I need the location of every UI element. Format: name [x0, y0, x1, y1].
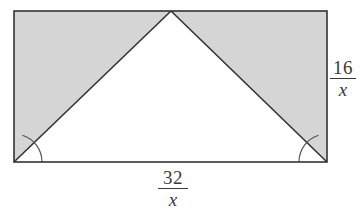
base-label-numerator: 32	[158, 168, 188, 188]
base-label-denominator: x	[158, 189, 188, 209]
base-label: 32 x	[158, 168, 188, 209]
height-label-numerator: 16	[330, 58, 356, 78]
height-label: 16 x	[330, 58, 356, 99]
height-label-denominator: x	[330, 79, 356, 99]
geometry-figure: 16 x 32 x	[0, 0, 360, 217]
